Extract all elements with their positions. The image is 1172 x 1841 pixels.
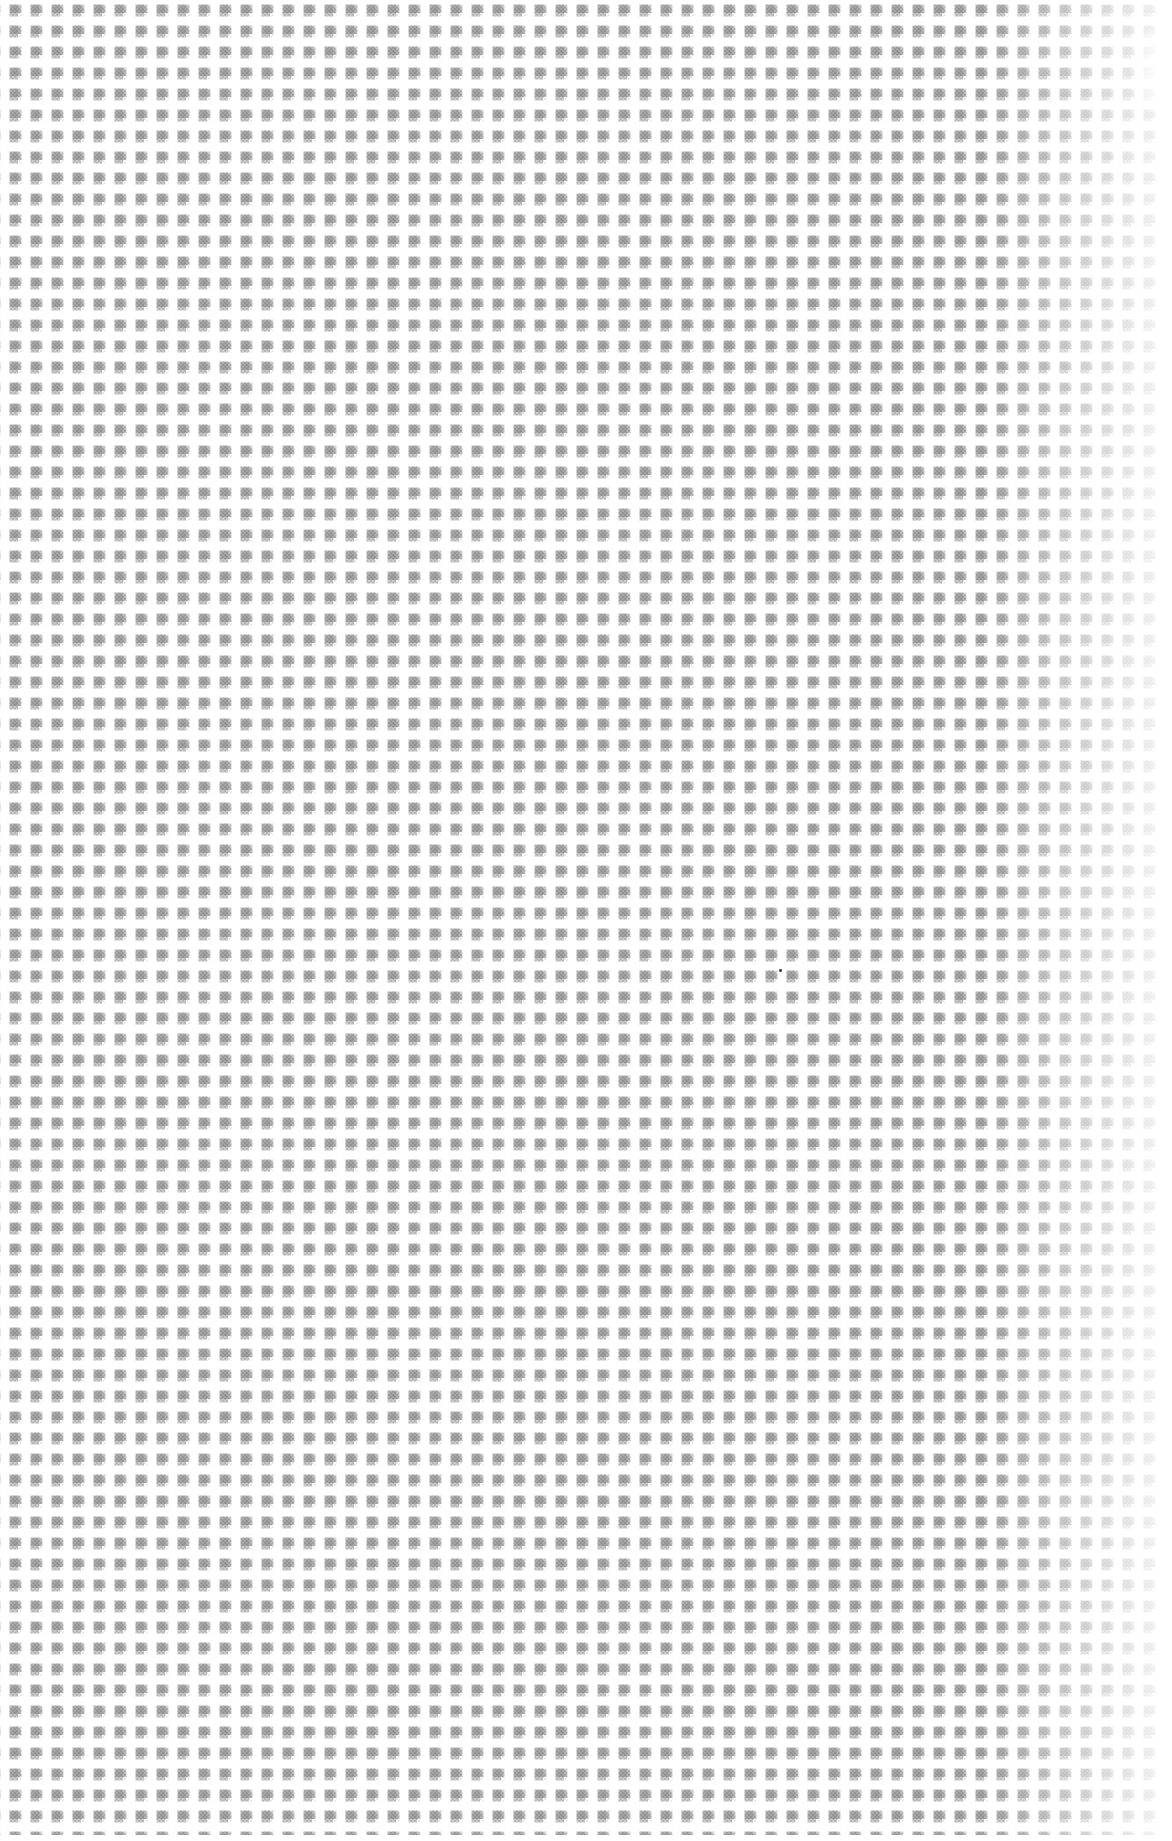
- screen-main-area: [0, 0, 1172, 1841]
- halftone-screen: [0, 0, 1172, 1841]
- halftone-gap-grid-layer: [0, 0, 1172, 1841]
- scanned-page: [0, 0, 1172, 1841]
- dark-speck-artifact: [779, 969, 782, 972]
